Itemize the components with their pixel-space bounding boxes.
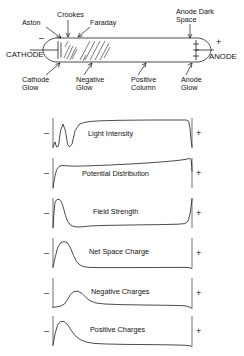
minus-sign: – xyxy=(44,168,49,178)
minus-sign: – xyxy=(44,248,49,258)
anode-sign: + xyxy=(216,37,221,47)
cathode-glow-label2: Glow xyxy=(22,83,39,92)
positive-column-leader xyxy=(138,63,146,75)
cathode-glow-leader xyxy=(46,63,60,75)
negative-glow-leader xyxy=(84,63,92,75)
minus-sign: – xyxy=(44,326,49,336)
plot-potential-distribution: – + Potential Distribution xyxy=(44,158,201,188)
plus-sign: + xyxy=(196,168,201,178)
cathode-glow-hatch xyxy=(64,41,77,60)
plus-sign: + xyxy=(196,288,201,298)
plot-label-field-strength: Field Strength xyxy=(93,207,138,216)
plot-label-positive-charges: Positive Charges xyxy=(90,325,146,334)
aston-leader xyxy=(46,27,61,38)
anode-dark-space-label2: Space xyxy=(176,15,196,24)
plus-sign: + xyxy=(196,248,201,258)
plot-positive-charges: – + Positive Charges xyxy=(44,316,201,347)
negative-glow-hatch xyxy=(80,41,110,61)
crookes-label: Crookes xyxy=(57,10,84,19)
figure-svg: CATHODE – ANODE + xyxy=(0,0,244,356)
faraday-leader xyxy=(78,27,90,37)
aston-label: Aston xyxy=(22,18,40,27)
plot-label-net-space-charge: Net Space Charge xyxy=(89,247,149,256)
figure-root: CATHODE – ANODE + xyxy=(0,0,244,356)
plus-sign: + xyxy=(196,128,201,138)
positive-column-label2: Column xyxy=(131,83,156,92)
cathode-label: CATHODE xyxy=(6,50,44,59)
faraday-label: Faraday xyxy=(90,18,117,27)
anode-label: ANODE xyxy=(209,52,237,61)
plus-sign: + xyxy=(196,326,201,336)
cathode-sign: – xyxy=(39,33,44,43)
glow-discharge-tube: CATHODE – ANODE + xyxy=(6,7,237,92)
anode-dark-space-leader xyxy=(188,24,192,38)
plot-field-strength: – + Field Strength xyxy=(44,198,201,228)
plot-label-light-intensity: Light Intensity xyxy=(88,129,133,138)
plot-net-space-charge: – + Net Space Charge xyxy=(44,238,201,269)
negative-glow-label2: Glow xyxy=(76,83,93,92)
minus-sign: – xyxy=(44,288,49,298)
anode-glow-label2: Glow xyxy=(181,83,198,92)
plus-sign: + xyxy=(196,208,201,218)
plot-label-potential-distribution: Potential Distribution xyxy=(82,169,149,178)
plot-negative-charges: – + Negative Charges xyxy=(44,278,201,309)
plot-light-intensity: – + Light Intensity xyxy=(44,118,201,148)
anode-glow-leader xyxy=(186,63,192,75)
minus-sign: – xyxy=(44,208,49,218)
plot-label-negative-charges: Negative Charges xyxy=(91,287,150,296)
minus-sign: – xyxy=(44,128,49,138)
crookes-leader xyxy=(66,20,70,37)
